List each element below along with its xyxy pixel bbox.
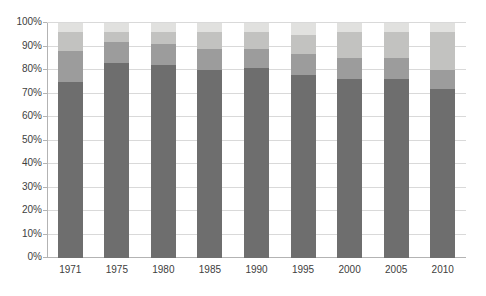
bar-1975-segment-dark: [104, 63, 129, 258]
y-axis-tick-label: 30%: [2, 182, 42, 192]
y-axis-tick: [43, 46, 47, 47]
bar-2000-segment-medium: [337, 58, 362, 79]
bar-1990-segment-lightest: [244, 23, 269, 32]
y-axis-tick: [43, 163, 47, 164]
y-axis-tick-label: 60%: [2, 111, 42, 121]
bar-1980-segment-dark: [151, 65, 176, 258]
bar-1975-segment-lightest: [104, 23, 129, 32]
bar-2000-segment-lightest: [337, 23, 362, 32]
bar-1980: [151, 23, 176, 258]
bar-1975: [104, 23, 129, 258]
x-axis-tick-label: 1980: [140, 264, 186, 276]
x-axis-tick-label: 1990: [234, 264, 280, 276]
y-axis-line: [47, 23, 48, 258]
y-axis-tick-label: 10%: [2, 229, 42, 239]
bar-1995-segment-lightest: [291, 23, 316, 35]
bar-1971: [58, 23, 83, 258]
chart-container: 0%10%20%30%40%50%60%70%80%90%100% 197119…: [0, 0, 486, 296]
x-axis-tick-label: 2010: [420, 264, 466, 276]
x-axis-tick-label: 1975: [94, 264, 140, 276]
y-axis-tick-label: 40%: [2, 158, 42, 168]
y-axis-tick-label: 20%: [2, 205, 42, 215]
bar-1995: [291, 23, 316, 258]
bar-1971-segment-light: [58, 32, 83, 51]
y-axis-tick: [43, 210, 47, 211]
bar-1985: [197, 23, 222, 258]
bar-2005-segment-lightest: [384, 23, 409, 32]
x-axis-tick-label: 1971: [47, 264, 93, 276]
y-axis-tick: [43, 22, 47, 23]
y-axis-tick: [43, 69, 47, 70]
bar-2010-segment-dark: [430, 89, 455, 258]
bar-1995-segment-medium: [291, 54, 316, 75]
x-axis-tick-label: 2005: [373, 264, 419, 276]
bar-1985-segment-light: [197, 32, 222, 48]
bar-2005-segment-light: [384, 32, 409, 58]
bar-2010-segment-light: [430, 32, 455, 70]
bar-1971-segment-medium: [58, 51, 83, 82]
y-axis-tick-label: 50%: [2, 135, 42, 145]
bar-2005-segment-medium: [384, 58, 409, 79]
bar-2000: [337, 23, 362, 258]
bar-1985-segment-lightest: [197, 23, 222, 32]
y-axis-tick: [43, 187, 47, 188]
bar-1975-segment-medium: [104, 42, 129, 63]
bar-2000-segment-dark: [337, 79, 362, 258]
x-axis-tick-label: 1995: [280, 264, 326, 276]
bar-1985-segment-dark: [197, 70, 222, 258]
bar-1980-segment-lightest: [151, 23, 176, 32]
y-axis-tick-label: 0%: [2, 252, 42, 262]
bar-2005: [384, 23, 409, 258]
bar-1990-segment-dark: [244, 68, 269, 258]
y-axis-tick: [43, 234, 47, 235]
bar-1995-segment-dark: [291, 75, 316, 258]
bar-2005-segment-dark: [384, 79, 409, 258]
bar-2010: [430, 23, 455, 258]
bar-1990-segment-light: [244, 32, 269, 48]
bar-2000-segment-light: [337, 32, 362, 58]
bar-1990: [244, 23, 269, 258]
x-axis-tick-label: 1985: [187, 264, 233, 276]
y-axis-tick-label: 100%: [2, 17, 42, 27]
y-axis-tick-label: 70%: [2, 88, 42, 98]
bar-1975-segment-light: [104, 32, 129, 41]
y-axis-tick: [43, 257, 47, 258]
bar-2010-segment-lightest: [430, 23, 455, 32]
y-axis-tick: [43, 93, 47, 94]
plot-area: [47, 23, 466, 258]
y-axis-tick: [43, 140, 47, 141]
bar-2010-segment-medium: [430, 70, 455, 89]
bar-1971-segment-lightest: [58, 23, 83, 32]
x-axis-tick-label: 2000: [327, 264, 373, 276]
bar-1980-segment-medium: [151, 44, 176, 65]
bar-1971-segment-dark: [58, 82, 83, 258]
bar-1980-segment-light: [151, 32, 176, 44]
y-axis-tick-label: 90%: [2, 41, 42, 51]
bar-1995-segment-light: [291, 35, 316, 54]
y-axis-tick-label: 80%: [2, 64, 42, 74]
y-axis-tick: [43, 116, 47, 117]
bar-1985-segment-medium: [197, 49, 222, 70]
bar-1990-segment-medium: [244, 49, 269, 68]
